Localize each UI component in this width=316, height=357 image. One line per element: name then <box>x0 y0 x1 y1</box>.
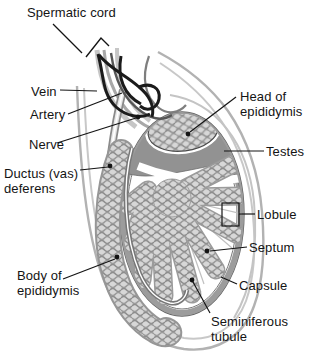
head-epididymis-dot <box>186 132 191 137</box>
spermatic-cord-leader <box>53 24 82 53</box>
label-vein: Vein <box>31 84 57 99</box>
label-seminiferous-line2: tubule <box>211 329 288 344</box>
label-ductus-line2: deferens <box>4 181 78 196</box>
seminiferous-dot <box>190 278 195 283</box>
nerve-dot <box>136 115 141 120</box>
label-ductus-deferens: Ductus (vas) deferens <box>4 166 78 196</box>
label-septum: Septum <box>249 240 294 255</box>
septum-dot <box>205 249 210 254</box>
label-nerve: Nerve <box>29 137 64 152</box>
label-spermatic-cord: Spermatic cord <box>27 5 116 20</box>
ductus-dot <box>108 164 113 169</box>
label-ductus-line1: Ductus (vas) <box>4 166 78 181</box>
label-seminiferous-line1: Seminiferous <box>211 314 288 329</box>
label-artery: Artery <box>30 107 65 122</box>
body-epididymis-dot <box>115 255 120 260</box>
vein-leader <box>60 90 97 91</box>
label-body-line1: Body of <box>17 268 79 283</box>
label-seminiferous-tubule: Seminiferous tubule <box>211 314 288 344</box>
label-head-line1: Head of <box>240 89 302 104</box>
label-body-line2: epididymis <box>17 283 79 298</box>
label-testes: Testes <box>266 144 304 159</box>
label-head-line2: epididymis <box>240 104 302 119</box>
nerve-leader <box>57 118 136 143</box>
label-body-of-epididymis: Body of epididymis <box>17 268 79 298</box>
label-head-of-epididymis: Head of epididymis <box>240 89 302 119</box>
testis-diagram: Spermatic cord Vein Artery Nerve Ductus … <box>0 0 316 357</box>
label-capsule: Capsule <box>239 278 287 293</box>
label-lobule: Lobule <box>257 207 297 222</box>
